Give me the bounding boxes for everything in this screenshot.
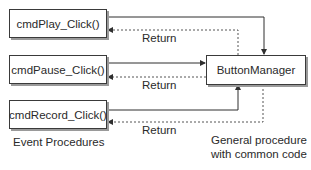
caption-general-procedure-line1: General procedure (211, 134, 307, 146)
call-arrow-play (107, 17, 264, 54)
event-procedure-pause: cmdPause_Click() (9, 55, 107, 84)
return-arrow-record (108, 85, 263, 122)
event-procedure-play: cmdPlay_Click() (9, 9, 107, 38)
general-procedure-button-manager: ButtonManager (206, 55, 306, 85)
event-procedure-record: cmdRecord_Click() (9, 100, 107, 129)
return-label-pause: Return (142, 79, 177, 91)
caption-event-procedures: Event Procedures (13, 136, 104, 148)
return-label-record: Return (142, 124, 177, 136)
caption-general-procedure-line2: with common code (211, 148, 307, 160)
event-procedure-label: cmdRecord_Click() (9, 109, 107, 121)
general-procedure-label: ButtonManager (217, 64, 296, 76)
event-procedure-label: cmdPause_Click() (11, 64, 104, 76)
event-procedure-label: cmdPlay_Click() (16, 18, 99, 30)
return-label-play: Return (142, 32, 177, 44)
